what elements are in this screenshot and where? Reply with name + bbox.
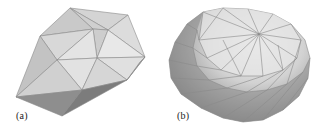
figure: (a) (0, 0, 326, 131)
panel-a: (a) (0, 0, 163, 131)
panel-a-label: (a) (16, 110, 28, 121)
panel-b: (b) (163, 0, 326, 131)
panel-b-label: (b) (177, 110, 189, 121)
